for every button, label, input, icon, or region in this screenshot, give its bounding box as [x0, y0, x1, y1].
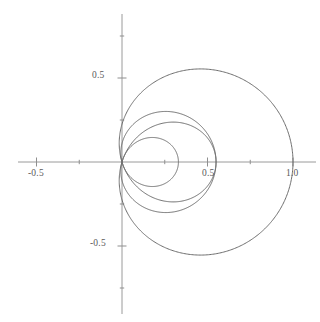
x-tick-label-one: 1.0 [286, 168, 298, 178]
plot-canvas [0, 0, 320, 322]
x-tick-label-neg-half: -0.5 [28, 168, 44, 178]
y-tick-label-half: 0.5 [92, 70, 104, 80]
y-tick-label-neg-half: -0.5 [90, 238, 106, 248]
x-tick-label-half: 0.5 [202, 168, 214, 178]
axes-group [18, 14, 316, 314]
polar-curve-plot: -0.5 0.5 1.0 0.5 -0.5 [0, 0, 320, 322]
